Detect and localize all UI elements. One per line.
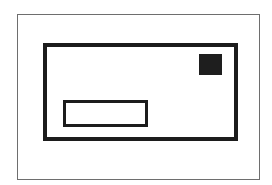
address-window [63,100,148,127]
stamp-icon [199,54,222,75]
